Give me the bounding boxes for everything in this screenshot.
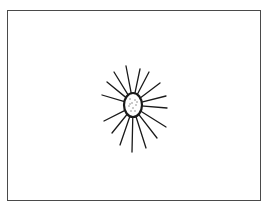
organism-illustration <box>0 0 269 210</box>
spine-line <box>126 66 132 95</box>
spine-line <box>135 115 146 148</box>
spine-line <box>102 95 125 102</box>
granule-dot <box>135 104 137 106</box>
granule-dot <box>134 99 136 101</box>
spine-line <box>132 115 133 152</box>
spine-line <box>140 111 166 127</box>
granule-dot <box>132 107 134 109</box>
granule-dot <box>130 110 132 112</box>
granule-dot <box>131 102 133 104</box>
spine-line <box>141 96 166 102</box>
spine-line <box>107 82 127 98</box>
granule-dot <box>136 101 138 103</box>
organism-body <box>124 93 142 117</box>
granule-dot <box>129 103 131 105</box>
granule-dot <box>134 110 136 112</box>
spine-line <box>138 113 157 138</box>
granule-dot <box>129 98 131 100</box>
spine-line <box>114 72 129 96</box>
spine-line <box>120 115 131 145</box>
spine-line <box>141 106 167 108</box>
granule-dot <box>128 105 130 107</box>
